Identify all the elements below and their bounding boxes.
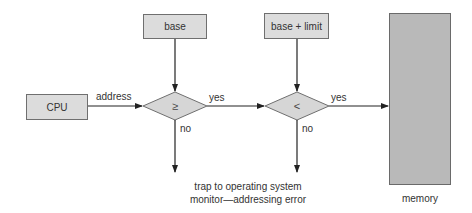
ge-no-label: no (180, 123, 191, 134)
cpu-box: CPU (26, 94, 88, 120)
base-limit-register-box: base + limit (264, 13, 329, 39)
lt-symbol: < (287, 100, 307, 112)
memory-label: memory (389, 193, 451, 204)
trap-line-2: monitor—addressing error (168, 194, 328, 205)
cpu-label: CPU (46, 102, 67, 113)
trap-line-1: trap to operating system (168, 181, 328, 192)
ge-symbol: ≥ (165, 100, 185, 112)
address-edge-label: address (96, 91, 132, 102)
base-register-box: base (143, 14, 207, 39)
lt-yes-label: yes (331, 92, 347, 103)
base-label: base (164, 21, 186, 32)
memory-box (389, 13, 451, 185)
ge-yes-label: yes (209, 92, 225, 103)
base-limit-label: base + limit (271, 21, 322, 32)
trap-label: trap to operating system monitor—address… (168, 181, 328, 205)
lt-no-label: no (302, 123, 313, 134)
